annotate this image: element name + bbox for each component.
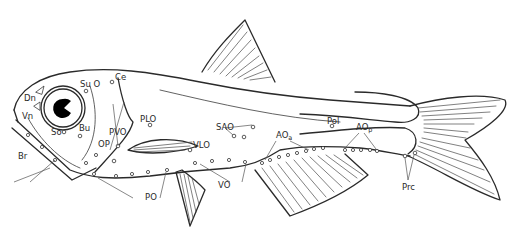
label-bu: Bu [79,123,90,133]
label-aoa: AOa [276,130,292,142]
photophore-suo [84,89,88,93]
label-plo: PLO [140,114,157,124]
label-aop: AOp [356,122,373,134]
photophore-ce [110,80,114,84]
label-so: So [51,127,62,137]
dorsal-fin [202,20,275,82]
label-op: OP [98,139,110,149]
label-sao: SAO [216,122,234,132]
label-po: PO [145,192,157,202]
pelvic-fin [176,170,205,226]
label-dn: Dn [24,93,36,103]
fish-diagram: Dn Vn Br Su O Ce So Bu OP PVO PLO VLO SA… [0,0,516,238]
caudal-fin [408,96,506,200]
photophore-so [62,130,66,134]
label-vn: Vn [22,111,33,121]
label-prc: Prc [402,182,415,192]
pectoral-fin [128,140,198,153]
anal-fin [255,154,368,216]
photophore-bu [78,134,82,138]
label-pol: Pol [327,116,339,126]
label-br: Br [18,151,28,161]
label-vo: VO [218,180,231,190]
label-suo: Su O [80,79,100,89]
label-pvo: PVO [109,127,127,137]
label-ce: Ce [115,72,126,82]
label-vlo: VLO [193,140,210,150]
